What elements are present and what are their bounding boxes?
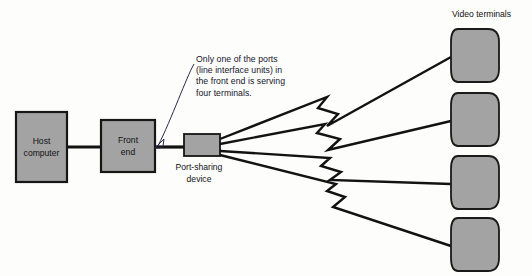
node-host-computer-label-line1: Host [33, 136, 51, 146]
port-sharing-device-label-line2: device [167, 174, 231, 186]
video-terminal-1 [451, 29, 499, 82]
video-terminal-2 [451, 93, 499, 146]
node-front-end [101, 120, 155, 172]
annotation-callout: Only one of the ports (line interface un… [196, 54, 285, 99]
video-terminals-group-label: Video terminals [452, 9, 511, 19]
node-front-end-label-line1: Front [118, 135, 139, 145]
node-port-sharing-device [184, 134, 220, 156]
port-sharing-device-label-line1: Port-sharing [167, 162, 231, 174]
port-sharing-device-label: Port-sharing device [167, 162, 231, 185]
node-front-end-label-line2: end [121, 147, 136, 157]
annotation-line-4: four terminals. [196, 88, 285, 99]
video-terminal-4 [451, 218, 499, 271]
diagram-svg: Host computer Front end [0, 0, 532, 276]
video-terminal-3 [451, 156, 499, 209]
diagram-canvas: Host computer Front end Only one of the … [0, 0, 532, 276]
link-portsharing-to-terminal-4 [220, 155, 451, 246]
annotation-line-2: (line interface units) in [196, 65, 285, 76]
annotation-line-1: Only one of the ports [196, 54, 285, 65]
node-host-computer-label-line2: computer [24, 148, 60, 158]
annotation-line-3: the front end is serving [196, 76, 285, 87]
link-portsharing-to-terminal-3 [220, 151, 451, 184]
node-host-computer [16, 112, 67, 182]
